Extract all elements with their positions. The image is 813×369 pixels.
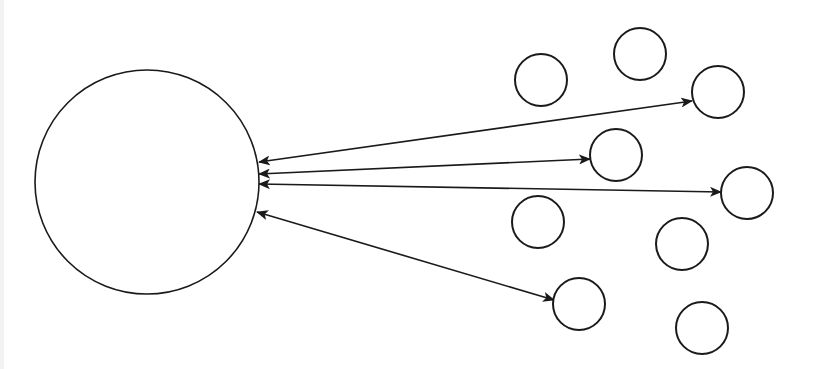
bidirectional-arrow-3 [259,184,721,192]
hub-circle [35,70,259,294]
edges-layer [257,101,721,300]
node-circle-1 [515,54,567,106]
node-circle-5 [721,167,773,219]
node-circle-8 [553,278,605,330]
bidirectional-arrow-2 [259,159,590,174]
node-circle-6 [512,196,564,248]
node-circle-2 [614,28,666,80]
bidirectional-arrow-4 [257,212,554,300]
node-circle-3 [692,66,744,118]
node-circle-4 [590,129,642,181]
network-diagram [0,0,813,369]
node-circle-7 [656,218,708,270]
node-circle-9 [676,302,728,354]
hub-layer [35,70,259,294]
